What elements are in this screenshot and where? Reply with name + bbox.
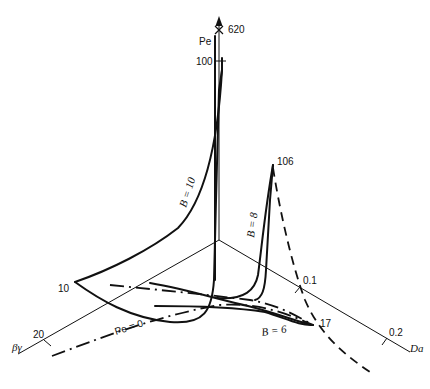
pe-axis-arrow-icon bbox=[216, 16, 223, 26]
label-da-02: 0.2 bbox=[389, 327, 403, 338]
label-620: 620 bbox=[228, 24, 245, 35]
label-bg-20: 20 bbox=[33, 329, 45, 340]
label-106: 106 bbox=[277, 156, 294, 167]
curve-dashed bbox=[273, 168, 370, 372]
beta-gamma-axis bbox=[18, 240, 219, 354]
label-pe: Pe bbox=[199, 36, 212, 47]
curve-b10-return bbox=[75, 70, 222, 322]
da-axis bbox=[219, 240, 410, 352]
label-b8: B = 8 bbox=[244, 211, 259, 238]
da-tick-01 bbox=[295, 287, 300, 293]
labels: Pe 620 100 10 20 βγ 0.1 0.2 Da B = 10 B … bbox=[11, 24, 424, 354]
beta-gamma-tick-20 bbox=[44, 340, 51, 346]
label-da: Da bbox=[409, 342, 424, 354]
label-beta-gamma: βγ bbox=[11, 341, 22, 353]
label-b6: B = 6 bbox=[261, 323, 288, 338]
3d-bifurcation-diagram: Pe 620 100 10 20 βγ 0.1 0.2 Da B = 10 B … bbox=[0, 0, 430, 389]
label-pe0: Pe = 0 bbox=[113, 317, 145, 337]
curve-b10 bbox=[75, 58, 222, 282]
label-da-01: 0.1 bbox=[303, 275, 317, 286]
label-bg-10: 10 bbox=[58, 283, 70, 294]
label-100: 100 bbox=[196, 56, 213, 67]
da-tick-02 bbox=[382, 338, 387, 345]
label-17: 17 bbox=[320, 318, 332, 329]
